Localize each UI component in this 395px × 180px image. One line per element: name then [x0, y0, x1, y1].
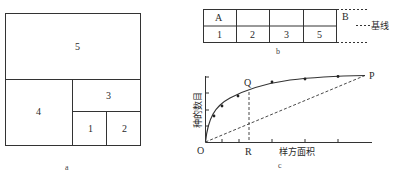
cell-1: 1	[217, 29, 222, 40]
figure-c	[206, 76, 373, 143]
caption-a: a	[65, 163, 69, 172]
cell-3: 3	[284, 29, 289, 40]
region-2-label: 2	[122, 123, 127, 134]
x-axis-label: 样方面积	[279, 146, 315, 157]
baseline-label: 基线	[371, 20, 389, 31]
caption-c: c	[278, 161, 282, 170]
region-5-label: 5	[75, 41, 80, 52]
region-1-label: 1	[88, 123, 93, 134]
origin-label: O	[197, 145, 204, 156]
figure-a	[6, 14, 141, 146]
y-axis-label: 种的数目	[192, 92, 203, 128]
cell-5: 5	[317, 29, 322, 40]
point-q-label: Q	[244, 77, 252, 88]
cell-a: A	[215, 12, 223, 23]
point-r-label: R	[245, 146, 252, 157]
caption-b: b	[276, 47, 280, 56]
point-p-label: P	[369, 70, 375, 81]
op-dashed-line	[206, 76, 366, 143]
region-4-label: 4	[36, 106, 41, 117]
region-3-label: 3	[106, 90, 111, 101]
label-b-side: B	[342, 11, 349, 22]
cell-2: 2	[250, 29, 255, 40]
data-points	[213, 75, 340, 117]
figure-canvas: 5 4 3 1 2 a A 1 2 3 5 B 基线 b	[0, 0, 395, 180]
